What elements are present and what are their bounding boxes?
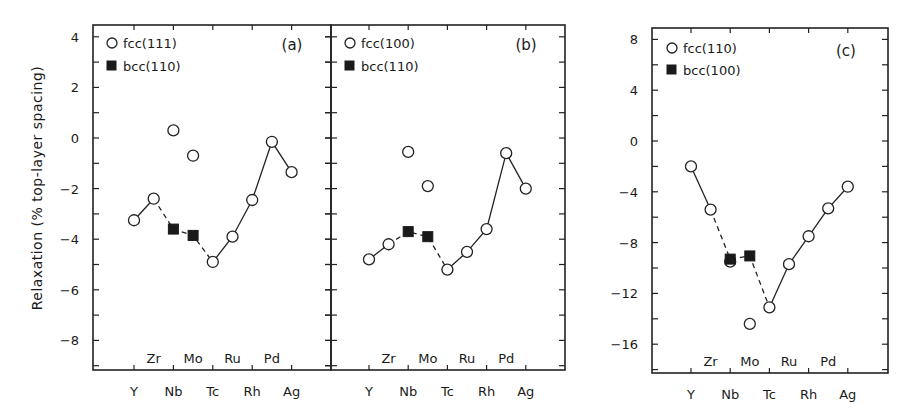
solid-connector-line — [691, 166, 711, 209]
legend-label: fcc(100) — [361, 36, 415, 51]
panels-group: 420−2−4−6−8YNbTcRhAgZrMoRuPdfcc(111)bcc(… — [60, 25, 888, 402]
chart-canvas: Relaxation (% top-layer spacing) 420−2−4… — [0, 0, 905, 420]
x-label-ag: Ag — [517, 384, 534, 399]
open-circle-marker — [168, 125, 179, 136]
plot-frame — [652, 28, 888, 373]
panel-a: 420−2−4−6−8YNbTcRhAgZrMoRuPdfcc(111)bcc(… — [60, 25, 331, 399]
x-label-zr: Zr — [381, 351, 396, 366]
y-tick-label: 0 — [630, 134, 638, 149]
x-label-pd: Pd — [498, 351, 514, 366]
legend-filled-square-icon — [107, 61, 116, 70]
x-label-tc: Tc — [205, 384, 219, 399]
relaxation-figure: Relaxation (% top-layer spacing) 420−2−4… — [0, 0, 905, 420]
y-tick-label: −8 — [619, 236, 638, 251]
open-circle-marker — [207, 256, 218, 267]
y-tick-label: −16 — [611, 337, 638, 352]
open-circle-marker — [422, 181, 433, 192]
plot-frame — [331, 25, 565, 370]
y-tick-label: −4 — [60, 232, 79, 247]
legend-label: bcc(100) — [683, 63, 741, 78]
x-label-ru: Ru — [224, 351, 241, 366]
x-label-mo: Mo — [184, 351, 203, 366]
legend-filled-square-icon — [345, 61, 354, 70]
legend-label: bcc(110) — [123, 59, 181, 74]
legend-label: bcc(110) — [361, 59, 419, 74]
open-circle-marker — [686, 161, 697, 172]
x-label-ru: Ru — [781, 354, 798, 369]
open-circle-marker — [501, 148, 512, 159]
solid-connector-line — [447, 153, 525, 269]
y-tick-label: −8 — [60, 333, 79, 348]
x-label-pd: Pd — [820, 354, 836, 369]
open-circle-marker — [129, 215, 140, 226]
open-circle-marker — [286, 167, 297, 178]
plot-frame — [93, 25, 331, 370]
x-label-y: Y — [364, 384, 373, 399]
legend-open-circle-icon — [345, 38, 355, 48]
x-label-zr: Zr — [147, 351, 162, 366]
y-tick-label: 0 — [71, 131, 79, 146]
open-circle-marker — [481, 224, 492, 235]
solid-connector-line — [769, 187, 847, 308]
open-circle-marker — [764, 302, 775, 313]
legend-filled-square-icon — [667, 65, 676, 74]
x-label-mo: Mo — [418, 351, 437, 366]
x-label-ag: Ag — [283, 384, 300, 399]
x-label-zr: Zr — [703, 354, 718, 369]
y-tick-label: 4 — [71, 30, 79, 45]
legend-label: fcc(111) — [123, 36, 177, 51]
dashed-connector-line — [389, 232, 448, 270]
x-label-y: Y — [129, 384, 138, 399]
open-circle-marker — [364, 254, 375, 265]
filled-square-marker — [745, 251, 755, 261]
x-label-y: Y — [686, 387, 695, 402]
x-label-mo: Mo — [740, 354, 759, 369]
open-circle-marker — [227, 231, 238, 242]
y-axis-label: Relaxation (% top-layer spacing) — [29, 66, 45, 311]
legend-open-circle-icon — [667, 43, 677, 53]
y-tick-label: 2 — [71, 80, 79, 95]
open-circle-marker — [462, 246, 473, 257]
legend: fcc(110)bcc(100) — [667, 41, 741, 78]
open-circle-marker — [188, 150, 199, 161]
panel-label: (a) — [282, 36, 303, 54]
x-label-tc: Tc — [762, 387, 776, 402]
dashed-connector-line — [711, 210, 770, 308]
x-label-nb: Nb — [721, 387, 739, 402]
y-tick-label: −6 — [60, 283, 79, 298]
x-label-tc: Tc — [440, 384, 454, 399]
legend-label: fcc(110) — [683, 41, 737, 56]
x-label-rh: Rh — [478, 384, 495, 399]
y-tick-label: 4 — [630, 83, 638, 98]
x-label-ag: Ag — [839, 387, 856, 402]
y-tick-label: −4 — [619, 185, 638, 200]
filled-square-marker — [423, 232, 433, 242]
panel-label: (c) — [836, 42, 856, 60]
x-label-nb: Nb — [399, 384, 417, 399]
x-label-nb: Nb — [164, 384, 182, 399]
x-label-rh: Rh — [244, 384, 261, 399]
open-circle-marker — [266, 136, 277, 147]
filled-square-marker — [403, 227, 413, 237]
x-label-rh: Rh — [800, 387, 817, 402]
panel-label: (b) — [515, 36, 536, 54]
legend: fcc(111)bcc(110) — [107, 36, 181, 74]
x-label-ru: Ru — [459, 351, 476, 366]
open-circle-marker — [705, 204, 716, 215]
open-circle-marker — [842, 181, 853, 192]
open-circle-marker — [383, 239, 394, 250]
legend: fcc(100)bcc(110) — [345, 36, 419, 74]
filled-square-marker — [725, 254, 735, 264]
filled-square-marker — [168, 224, 178, 234]
open-circle-marker — [247, 194, 258, 205]
dashed-connector-line — [154, 199, 213, 262]
panel-b: YNbTcRhAgZrMoRuPdfcc(100)bcc(110)(b) — [325, 25, 565, 399]
filled-square-marker — [188, 230, 198, 240]
open-circle-marker — [442, 264, 453, 275]
open-circle-marker — [403, 146, 414, 157]
open-circle-marker — [823, 203, 834, 214]
legend-open-circle-icon — [107, 38, 117, 48]
open-circle-marker — [148, 193, 159, 204]
x-label-pd: Pd — [264, 351, 280, 366]
open-circle-marker — [520, 183, 531, 194]
